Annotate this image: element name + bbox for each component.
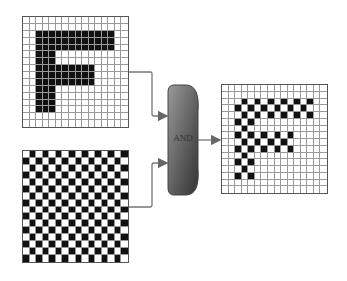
arrow-f-to-gate: [129, 72, 167, 116]
arrow-checker-to-gate: [129, 163, 167, 207]
and-gate-label: AND: [168, 133, 198, 143]
